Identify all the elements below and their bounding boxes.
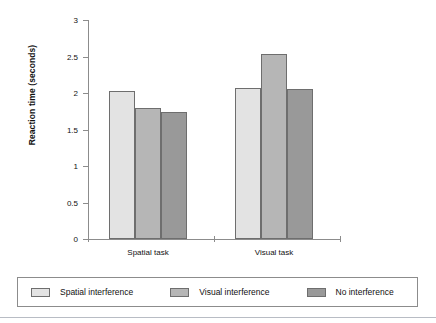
- legend-item: Visual interference: [170, 287, 269, 297]
- y-axis-title: Reaction time (seconds): [27, 10, 37, 180]
- y-axis-tick: [83, 166, 89, 167]
- y-axis-tick: [83, 57, 89, 58]
- legend-item: No interference: [307, 287, 394, 297]
- y-axis-tick-label: 1: [45, 162, 78, 171]
- y-axis-tick: [83, 20, 89, 21]
- bar: [261, 54, 287, 239]
- x-axis-tick: [340, 236, 341, 242]
- legend-swatch-icon: [31, 288, 50, 297]
- bar: [109, 91, 135, 239]
- y-axis-tick-label: 1.5: [45, 125, 78, 134]
- y-axis-tick-label: 0: [45, 235, 78, 244]
- legend-item-label: Visual interference: [199, 287, 269, 297]
- x-axis-category-label: Visual task: [255, 248, 294, 257]
- plot-area: Reaction time (seconds) 00.511.522.53 Sp…: [0, 0, 436, 268]
- legend-swatch-icon: [307, 288, 326, 297]
- legend-item-label: Spatial interference: [60, 287, 133, 297]
- bar: [135, 108, 161, 239]
- x-axis-tick: [214, 236, 215, 242]
- x-axis-category-label: Spatial task: [127, 248, 168, 257]
- y-axis-tick-label: 2: [45, 89, 78, 98]
- legend-item-label: No interference: [336, 287, 394, 297]
- x-axis-tick: [88, 236, 89, 242]
- legend-item: Spatial interference: [31, 287, 133, 297]
- bar-chart-figure: Reaction time (seconds) 00.511.522.53 Sp…: [0, 0, 436, 323]
- chart-legend: Spatial interference Visual interference…: [17, 277, 418, 307]
- legend-swatch-icon: [170, 288, 189, 297]
- bar: [161, 112, 187, 239]
- footer-divider: [0, 317, 436, 318]
- bar: [287, 89, 313, 239]
- y-axis-tick-label: 3: [45, 16, 78, 25]
- y-axis-tick: [83, 130, 89, 131]
- y-axis-tick-label: 0.5: [45, 198, 78, 207]
- y-axis-tick: [83, 203, 89, 204]
- y-axis-tick-label: 2.5: [45, 52, 78, 61]
- y-axis-tick: [83, 93, 89, 94]
- bar: [235, 88, 261, 239]
